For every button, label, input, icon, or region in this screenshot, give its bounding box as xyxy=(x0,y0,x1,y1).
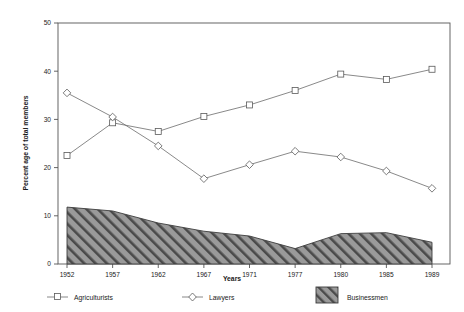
legend-label-businessmen: Businessmen xyxy=(347,294,388,301)
x-tick-label: 1962 xyxy=(151,271,166,278)
data-point-marker xyxy=(292,87,298,93)
x-tick-label: 1977 xyxy=(288,271,303,278)
x-tick-label: 1989 xyxy=(425,271,440,278)
y-tick-label: 30 xyxy=(44,116,52,123)
x-tick-label: 1985 xyxy=(379,271,394,278)
x-tick-label: 1980 xyxy=(333,271,348,278)
x-axis: 195219571962196719711977198019851989 xyxy=(60,264,440,278)
chart-figure: 01020304050 1952195719621967197119771980… xyxy=(0,0,464,312)
data-point-marker xyxy=(247,102,253,108)
x-tick-label: 1971 xyxy=(242,271,257,278)
square-marker-icon xyxy=(55,294,61,300)
data-point-marker xyxy=(429,66,435,72)
x-tick-label: 1952 xyxy=(60,271,75,278)
legend-item-lawyers[interactable]: Lawyers xyxy=(182,293,235,302)
chart-legend: Agriculturists Lawyers Businessmen xyxy=(47,287,388,303)
x-axis-title: Years xyxy=(223,275,241,282)
legend-label-agriculturists: Agriculturists xyxy=(74,294,114,302)
x-tick-label: 1957 xyxy=(105,271,120,278)
hatched-box-icon xyxy=(316,287,338,303)
legend-item-agriculturists[interactable]: Agriculturists xyxy=(47,294,114,302)
y-axis: 01020304050 xyxy=(44,19,58,267)
data-point-marker xyxy=(64,153,70,159)
y-tick-label: 0 xyxy=(47,260,51,267)
diamond-marker-icon xyxy=(189,293,197,301)
y-tick-label: 20 xyxy=(44,164,52,171)
y-tick-label: 40 xyxy=(44,68,52,75)
data-point-marker xyxy=(383,76,389,82)
data-point-marker xyxy=(155,128,161,134)
y-tick-label: 50 xyxy=(44,19,52,26)
chart-container: 01020304050 1952195719621967197119771980… xyxy=(0,0,464,312)
y-tick-label: 10 xyxy=(44,212,52,219)
data-point-marker xyxy=(338,71,344,77)
legend-item-businessmen[interactable]: Businessmen xyxy=(316,287,388,303)
data-point-marker xyxy=(201,114,207,120)
legend-label-lawyers: Lawyers xyxy=(209,294,235,302)
y-axis-title: Percent age of total members xyxy=(22,95,30,190)
x-tick-label: 1967 xyxy=(197,271,212,278)
